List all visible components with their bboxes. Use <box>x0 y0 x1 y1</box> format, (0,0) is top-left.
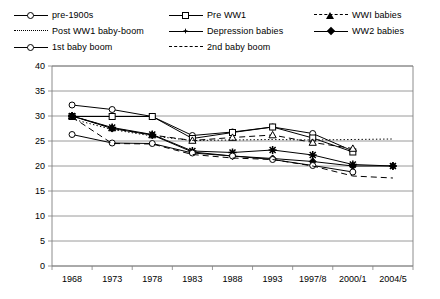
y-axis-tick-label: 15 <box>35 186 45 196</box>
chart-plot-area: 0510152025303540 19681973197819831988199… <box>0 0 440 299</box>
open-circle-marker-icon <box>350 169 356 175</box>
x-axis-tick-label: 1968 <box>62 274 82 284</box>
y-axis-tick-label: 25 <box>35 136 45 146</box>
open-circle-marker-icon <box>69 102 75 108</box>
x-axis-ticks: 1968197319781983198819931997/82000/12004… <box>52 266 413 284</box>
x-axis-tick-label: 1973 <box>102 274 122 284</box>
y-axis-ticks: 0510152025303540 <box>35 61 45 271</box>
open-circle-marker-icon <box>69 132 75 138</box>
open-circle-marker-icon <box>149 141 155 147</box>
open-circle-marker-icon <box>109 107 115 113</box>
open-circle-marker-icon <box>109 140 115 146</box>
star-cross-marker-icon <box>269 146 277 154</box>
chart-svg: 0510152025303540 19681973197819831988199… <box>0 0 440 299</box>
x-axis-tick-label: 1988 <box>222 274 242 284</box>
x-axis-tick-label: 1983 <box>182 274 202 284</box>
chart-series-group <box>68 102 397 178</box>
y-axis-tick-label: 0 <box>40 261 45 271</box>
open-square-marker-icon <box>270 124 276 130</box>
x-axis-tick-label: 2004/5 <box>379 274 407 284</box>
y-axis-tick-label: 35 <box>35 86 45 96</box>
x-axis-tick-label: 1978 <box>142 274 162 284</box>
open-triangle-marker-icon <box>269 131 276 137</box>
open-square-marker-icon <box>109 114 115 120</box>
y-axis-tick-label: 30 <box>35 111 45 121</box>
y-axis-tick-label: 10 <box>35 211 45 221</box>
y-axis-tick-label: 5 <box>40 236 45 246</box>
y-axis-tick-label: 40 <box>35 61 45 71</box>
y-axis-tick-label: 20 <box>35 161 45 171</box>
x-axis-tick-label: 1997/8 <box>299 274 327 284</box>
open-square-marker-icon <box>149 114 155 120</box>
x-axis-tick-label: 2000/1 <box>339 274 367 284</box>
chart-figure: pre-1900s Pre WW1 WWI babies Post WW1 ba… <box>0 0 440 299</box>
x-axis-tick-label: 1993 <box>263 274 283 284</box>
